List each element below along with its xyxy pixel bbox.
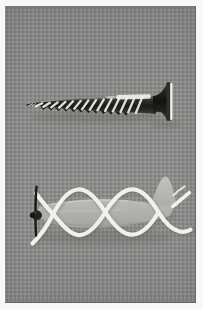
page-margin: { "figure": { "kind": "halftone-photogra… [0,0,203,310]
tail-fin-shading [152,177,176,207]
helix-ribbon-behind-fin-upper [174,186,185,195]
screw-collar-glint [106,96,116,99]
screw-shadow [30,113,162,123]
airplane-figure [30,177,191,245]
airplane-shadow [34,230,174,244]
figure-canvas [0,0,203,310]
screw-collar-highlight [116,94,151,100]
screw-head-shadow [152,121,180,128]
screw-figure [26,82,180,127]
propeller-hub-glint [34,212,36,214]
screw-head-rim-highlight [170,83,172,120]
